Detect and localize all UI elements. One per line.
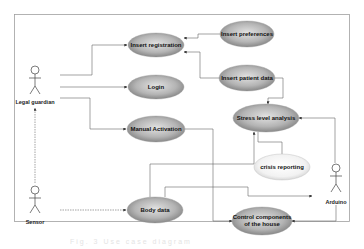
use-case-insert-registration[interactable]: Insert registration	[128, 33, 184, 57]
actor-label: Arduino	[325, 199, 347, 205]
use-case-diagram: Insert registration Insert preferences L…	[0, 0, 364, 249]
connectors	[35, 34, 336, 221]
edge-crisis-stress	[258, 132, 282, 154]
use-cases: Insert registration Insert preferences L…	[127, 21, 310, 235]
use-case-label: Manual Activation	[130, 126, 181, 132]
use-case-label: Login	[148, 84, 165, 90]
stick-figure-icon	[330, 164, 342, 192]
use-case-login[interactable]: Login	[128, 75, 184, 99]
use-case-manual-activation[interactable]: Manual Activation	[127, 116, 185, 142]
edge-preferences-registration	[184, 34, 220, 38]
actor-arduino[interactable]: Arduino	[325, 164, 347, 205]
use-case-label: Control components	[233, 214, 292, 220]
use-case-label: crisis reporting	[260, 164, 304, 170]
use-case-label: Stress level analysis	[237, 115, 296, 121]
actor-label: Legal guardian	[15, 99, 55, 105]
edge-arduino-stress	[299, 118, 335, 163]
stick-figure-icon	[29, 186, 41, 213]
use-case-label-line2: of the house	[244, 221, 280, 227]
figure-caption: Fig. 3 Use case diagram	[70, 238, 310, 246]
actor-legal-guardian[interactable]: Legal guardian	[15, 66, 55, 105]
edge-guardian-manual	[60, 98, 126, 129]
actor-label: Sensor	[26, 219, 46, 225]
use-case-insert-preferences[interactable]: Insert preferences	[220, 21, 274, 47]
use-case-label: Insert registration	[130, 42, 181, 48]
use-case-label: Insert patient data	[221, 75, 273, 81]
use-case-body-data[interactable]: Body data	[127, 197, 183, 223]
use-case-control-components[interactable]: Control components of the house	[232, 207, 292, 235]
edge-arduino-control	[292, 205, 336, 221]
edge-bodydata-arduino	[165, 187, 312, 197]
use-case-stress-level-analysis[interactable]: Stress level analysis	[233, 104, 299, 132]
use-case-crisis-reporting[interactable]: crisis reporting	[254, 154, 310, 180]
edge-manual-control	[185, 129, 232, 221]
actor-sensor[interactable]: Sensor	[26, 186, 46, 225]
use-case-insert-patient-data[interactable]: Insert patient data	[219, 65, 275, 91]
edge-patientdata-registration	[184, 52, 220, 78]
stick-figure-icon	[29, 66, 41, 94]
edge-guardian-registration	[60, 45, 127, 75]
use-case-label: Insert preferences	[221, 31, 274, 37]
use-case-label: Body data	[140, 207, 170, 213]
